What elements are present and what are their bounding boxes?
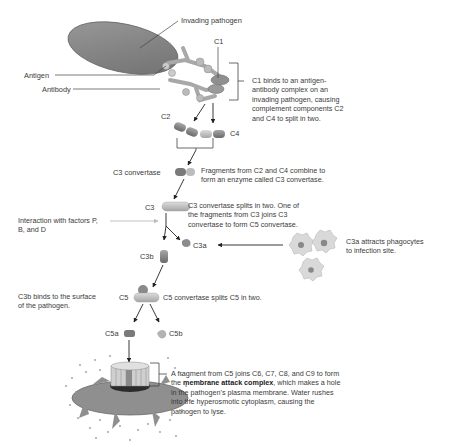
step-c5-splits: C5 convertase splits C5 in two. [163, 293, 262, 302]
c2-label: C2 [161, 112, 170, 121]
c1-label: C1 [214, 37, 223, 46]
c5b-shape [157, 330, 166, 339]
c3a-shape [182, 239, 191, 247]
step-c3a-attracts: C3a attracts phagocytes to infection sit… [346, 237, 424, 256]
interaction-label: Interaction with factors P, B, and D [18, 216, 98, 235]
antibody-label: Antibody [42, 85, 71, 94]
phagocytes [289, 230, 337, 281]
mac-term: membrane attack complex [183, 378, 273, 387]
invading-pathogen-label: Invading pathogen [181, 16, 242, 25]
c2-fragment-b [185, 126, 199, 138]
c3-convertase-shape [175, 168, 186, 176]
step-fragments: Fragments from C2 and C4 combine to form… [201, 166, 325, 185]
c3a-label: C3a [193, 241, 207, 250]
c4-label: C4 [230, 129, 239, 138]
c4-fragment-b [213, 130, 225, 138]
c5a-shape [124, 330, 135, 337]
antigen-label: Antigen [24, 71, 49, 80]
c3b-shape [160, 250, 168, 263]
c3-convertase-label: C3 convertase [113, 168, 161, 177]
invading-pathogen [63, 13, 183, 83]
c2-fragment-a [173, 121, 187, 133]
c5a-label: C5a [105, 329, 119, 338]
step-c3-splits: C3 convertase splits in two. One of the … [188, 201, 299, 229]
step-mac: A fragment from C5 joins C6, C7, C8, and… [171, 369, 340, 416]
c5-label: C5 [119, 293, 128, 302]
c2-c4-bracket [177, 138, 213, 150]
c4-fragment-a [200, 130, 212, 138]
c3-label: C3 [145, 203, 154, 212]
step-c1-binds: C1 binds to an antigen- antibody complex… [252, 76, 344, 123]
c3-shape [162, 202, 190, 211]
membrane-attack-complex [110, 362, 150, 392]
c5b-label: C5b [169, 329, 183, 338]
c5-shape [134, 293, 159, 302]
c3b-label: C3b [140, 252, 154, 261]
c1-bracket [229, 63, 244, 100]
step-c3b-binds: C3b binds to the surface of the pathogen… [18, 292, 96, 311]
